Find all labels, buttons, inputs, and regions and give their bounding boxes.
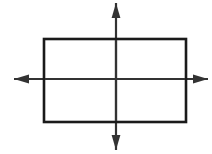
figure-container: [0, 0, 212, 154]
symmetry-diagram: [0, 0, 212, 154]
diagram-background: [0, 0, 212, 154]
